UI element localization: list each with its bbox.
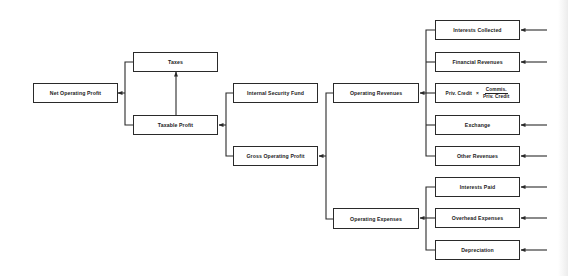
- node-internal-security-fund: Internal Security Fund: [233, 83, 318, 103]
- node-interests-collected: Interests Collected: [435, 20, 520, 40]
- node-net-operating-profit: Net Operating Profit: [33, 83, 118, 103]
- profit-tree-diagram: Net Operating Profit Taxes Taxable Profi…: [0, 0, 568, 276]
- node-financial-revenues: Financial Revenues: [435, 52, 520, 72]
- formula-fraction: Commis. Priv. Credit: [483, 87, 509, 99]
- node-depreciation: Depreciation: [435, 240, 520, 260]
- node-operating-expenses: Operating Expenses: [333, 208, 419, 229]
- priv-credit-formula: Priv. Credit × Commis. Priv. Credit: [446, 87, 510, 99]
- formula-denominator: Priv. Credit: [483, 94, 509, 100]
- node-taxable-profit: Taxable Profit: [133, 115, 218, 135]
- node-interests-paid: Interests Paid: [435, 177, 520, 197]
- node-gross-operating-profit: Gross Operating Profit: [233, 146, 318, 166]
- node-other-revenues: Other Revenues: [435, 146, 520, 166]
- connector-lines: [0, 0, 568, 276]
- node-operating-revenues: Operating Revenues: [333, 83, 419, 103]
- node-taxes: Taxes: [133, 52, 218, 72]
- node-priv-credit-formula: Priv. Credit × Commis. Priv. Credit: [435, 83, 520, 103]
- formula-left: Priv. Credit: [446, 91, 472, 96]
- formula-operator: ×: [476, 91, 479, 96]
- node-exchange: Exchange: [435, 115, 520, 135]
- node-overhead-expenses: Overhead Expenses: [435, 208, 520, 228]
